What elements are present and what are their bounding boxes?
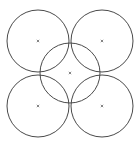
circle-top-left — [7, 10, 69, 72]
overlapping-circles-diagram — [0, 0, 139, 145]
circle-bottom-left — [7, 75, 69, 137]
circle-center — [40, 43, 100, 103]
center-marker-icon — [37, 40, 39, 42]
center-marker-icon — [101, 105, 103, 107]
circle-bottom-right — [71, 75, 133, 137]
center-marker-icon — [37, 105, 39, 107]
circle-top-right — [71, 10, 133, 72]
center-marker-icon — [101, 40, 103, 42]
center-marker-icon — [69, 72, 71, 74]
